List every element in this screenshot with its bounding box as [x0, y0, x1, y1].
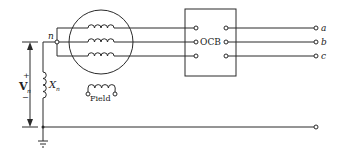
terminal-b-label: b: [321, 37, 327, 47]
output-lines: [228, 28, 314, 56]
terminal-a-label: a: [321, 23, 326, 33]
voltage-plus: +: [23, 71, 30, 80]
terminal-b[interactable]: [314, 40, 318, 44]
terminal-c[interactable]: [314, 54, 318, 58]
neutral-label: n: [48, 31, 54, 41]
ground-icon: [38, 141, 48, 147]
armature-windings: [57, 25, 196, 56]
ocb-label: OCB: [200, 37, 221, 47]
terminal-c-label: c: [321, 51, 326, 61]
arrow-down-icon: [27, 119, 33, 127]
winding-a-icon: [88, 25, 114, 28]
winding-c-icon: [88, 53, 114, 56]
reactance-subscript: n: [56, 85, 60, 92]
field-label: Field: [90, 94, 111, 103]
ground-return-terminal[interactable]: [314, 125, 318, 129]
neutral-node-icon: [55, 40, 59, 44]
winding-b-icon: [88, 39, 114, 42]
neutral-reactor-icon: [43, 72, 46, 98]
arrow-up-icon: [27, 42, 33, 50]
field-coil-icon: [88, 85, 115, 92]
field-terminal-right: [113, 92, 117, 96]
voltage-minus: −: [22, 93, 29, 102]
circuit-diagram: n X n + V n − Field OCB: [0, 0, 339, 161]
terminal-a[interactable]: [314, 26, 318, 30]
